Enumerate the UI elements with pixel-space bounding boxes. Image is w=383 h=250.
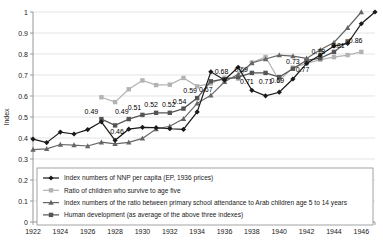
y-tick-label: 0.1 — [18, 198, 28, 205]
data-point-label: 0.59 — [183, 87, 197, 94]
y-tick-label: 0.9 — [18, 30, 28, 37]
y-tick-label: 0 — [24, 219, 28, 226]
x-tick-label: 1934 — [189, 228, 205, 235]
data-point-marker — [140, 113, 144, 117]
data-point-marker — [195, 96, 199, 100]
x-tick-label: 1924 — [53, 228, 69, 235]
x-tick-label: 1942 — [299, 228, 315, 235]
data-point-marker — [49, 213, 53, 217]
legend-item-label: Ratio of children who survive to age fiv… — [64, 187, 181, 195]
data-point-marker — [154, 83, 158, 87]
x-tick-label: 1936 — [217, 228, 233, 235]
data-point-label: 0.78 — [311, 48, 325, 55]
data-point-marker — [168, 111, 172, 115]
y-tick-label: 0.5 — [18, 114, 28, 121]
data-point-label: 0.54 — [173, 98, 187, 105]
y-tick-label: 0.7 — [18, 72, 28, 79]
x-tick-label: 1946 — [354, 228, 370, 235]
legend: Index numbers of NNP per capita (EP, 193… — [37, 168, 373, 225]
y-axis-title: Index — [3, 108, 10, 126]
y-tick-label: 0.2 — [18, 177, 28, 184]
data-point-label: 0.52 — [144, 101, 158, 108]
data-point-label: 0.71 — [240, 78, 254, 85]
data-point-label: 0.73 — [286, 58, 300, 65]
data-point-marker — [263, 71, 267, 75]
data-point-label: 0.77 — [296, 66, 310, 73]
y-tick-label: 0.3 — [18, 156, 28, 163]
data-point-label: 0.67 — [199, 86, 213, 93]
data-point-marker — [127, 117, 131, 121]
data-point-label: 0.49 — [115, 108, 129, 115]
legend-item-label: Human development (as average of the abo… — [64, 211, 243, 219]
data-point-marker — [127, 87, 131, 91]
x-tick-label: 1944 — [326, 228, 342, 235]
data-point-marker — [99, 95, 103, 99]
y-tick-label: 1 — [24, 9, 28, 16]
x-tick-label: 1926 — [80, 228, 96, 235]
data-point-marker — [113, 100, 117, 104]
y-tick-label: 0.6 — [18, 93, 28, 100]
data-point-label: 0.69 — [270, 77, 284, 84]
y-axis-label: Index — [3, 108, 10, 126]
data-point-marker — [168, 82, 172, 86]
legend-item-label: Index numbers of NNP per capita (EP, 193… — [64, 174, 213, 182]
data-point-label: 0.86 — [349, 37, 363, 44]
y-tick-label: 0.8 — [18, 51, 28, 58]
y-tick-label: 0.4 — [18, 135, 28, 142]
data-point-marker — [345, 53, 349, 57]
x-tick-label: 1928 — [107, 228, 123, 235]
x-tick-label: 1922 — [25, 228, 41, 235]
x-tick-label: 1938 — [244, 228, 260, 235]
data-point-marker — [209, 79, 213, 83]
data-point-label: 0.68 — [215, 68, 229, 75]
data-point-marker — [49, 188, 53, 192]
y-axis-ticks: 00.10.20.30.40.50.60.70.80.91 — [18, 9, 33, 226]
data-point-marker — [181, 106, 185, 110]
chart-container: 00.10.20.30.40.50.60.70.80.9119221924192… — [0, 0, 383, 250]
data-point-label: 0.49 — [85, 108, 99, 115]
data-point-marker — [113, 123, 117, 127]
data-point-marker — [291, 67, 295, 71]
data-point-label: 0.69 — [234, 66, 248, 73]
line-chart: 00.10.20.30.40.50.60.70.80.9119221924192… — [0, 0, 383, 250]
data-point-marker — [332, 50, 336, 54]
data-point-marker — [250, 71, 254, 75]
data-point-marker — [140, 78, 144, 82]
data-point-marker — [181, 76, 185, 80]
legend-item-label: Index numbers of the ratio between prima… — [64, 199, 348, 207]
x-tick-label: 1932 — [162, 228, 178, 235]
data-point-marker — [154, 111, 158, 115]
data-point-label: 0.51 — [128, 104, 142, 111]
data-point-marker — [359, 50, 363, 54]
data-point-label: 0.81 — [331, 42, 345, 49]
data-point-marker — [332, 55, 336, 59]
x-tick-label: 1930 — [135, 228, 151, 235]
x-tick-label: 1940 — [271, 228, 287, 235]
data-point-label: 0.46 — [110, 128, 124, 135]
